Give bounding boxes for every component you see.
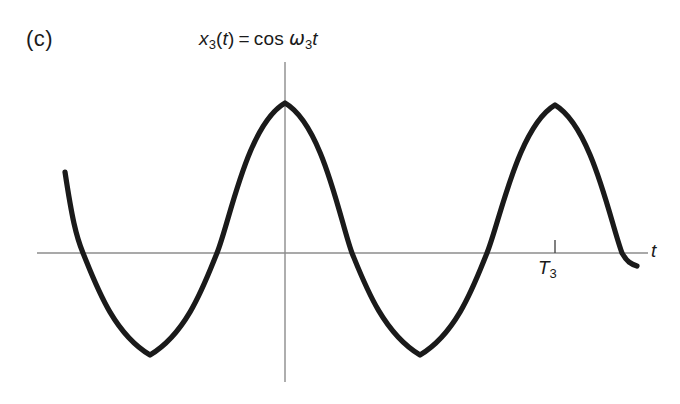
equation-argument-variable: t	[222, 28, 227, 49]
equation-time-variable: t	[312, 28, 317, 49]
period-subscript: 3	[550, 266, 557, 281]
equation-function-subscript: 3	[209, 37, 216, 52]
equation-function-name: x	[199, 28, 209, 49]
x-axis-label: t	[651, 241, 656, 260]
equation-omega: ω	[284, 27, 305, 49]
figure-container: (c) x3(t)=cosω3t T3 t	[0, 0, 680, 404]
panel-label: (c)	[26, 28, 53, 50]
period-label: T3	[538, 258, 557, 280]
period-symbol: T	[538, 257, 550, 278]
equation-cos: cos	[254, 28, 284, 49]
cosine-waveform-plot	[0, 0, 680, 404]
equation-argument: (t)	[216, 28, 235, 49]
equation-equals-sign: =	[234, 28, 253, 49]
cosine-curve	[65, 103, 637, 355]
equation-label: x3(t)=cosω3t	[199, 29, 318, 51]
